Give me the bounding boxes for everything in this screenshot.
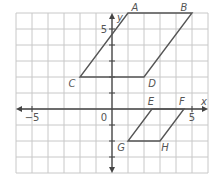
vertex-label-a: A: [131, 2, 139, 13]
origin-label: 0: [101, 112, 107, 123]
y-tick-label: 5: [101, 24, 107, 35]
vertex-label-c: C: [69, 78, 76, 89]
coordinate-plane: xy0−555ABDCEFHG: [0, 0, 217, 184]
y-axis-up-arrow-icon: [109, 13, 115, 19]
y-axis-down-arrow-icon: [109, 167, 115, 173]
x-tick-label: 5: [189, 112, 195, 123]
x-axis-label: x: [200, 96, 207, 107]
y-axis-label: y: [116, 12, 124, 23]
vertex-label-d: D: [148, 78, 156, 89]
vertex-label-h: H: [161, 142, 169, 153]
x-tick-label: −5: [25, 112, 40, 123]
vertex-label-f: F: [179, 96, 185, 107]
vertex-label-g: G: [117, 142, 125, 153]
x-axis-left-arrow-icon: [16, 106, 22, 112]
vertex-label-e: E: [148, 96, 155, 107]
vertex-label-b: B: [181, 2, 188, 13]
